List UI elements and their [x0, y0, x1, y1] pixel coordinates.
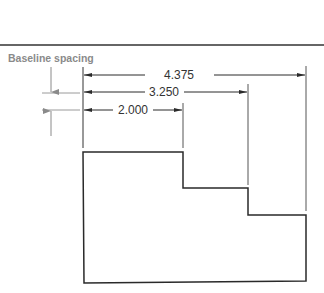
dimension-value-2000: 2.000 [118, 103, 148, 117]
dimension-value-4375: 4.375 [164, 68, 194, 82]
drawing-canvas: 4.375 3.250 2.000 [0, 0, 324, 293]
baseline-spacing-indicator [42, 67, 80, 136]
dimension-value-3250: 3.250 [149, 85, 179, 99]
dimension-4375: 4.375 [84, 68, 305, 82]
stepped-part-outline [83, 152, 306, 283]
dimension-3250: 3.250 [84, 85, 247, 99]
dimension-2000: 2.000 [84, 103, 182, 117]
